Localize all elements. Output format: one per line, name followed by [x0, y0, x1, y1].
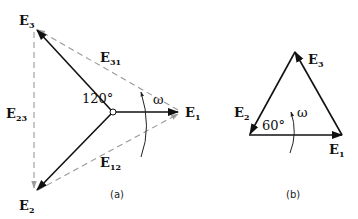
figure-canvas: ω 120° E1 E3 E2 E31 E12 E23 (a) ω 60° E1… — [0, 0, 358, 219]
label-e2-b: E2 — [234, 105, 250, 122]
diagram-b: ω 60° E1 E2 E3 (b) — [234, 52, 345, 200]
angle-label-b: 60° — [262, 118, 285, 133]
rotation-arc-a — [141, 92, 147, 157]
angle-label-a: 120° — [82, 91, 113, 106]
phasor-e2 — [37, 114, 111, 190]
omega-label-a: ω — [153, 92, 164, 107]
label-e3-a: E3 — [19, 13, 35, 30]
label-e2-a: E2 — [19, 198, 35, 215]
label-e12: E12 — [100, 155, 121, 172]
label-e1-b: E1 — [329, 142, 345, 159]
label-e23: E23 — [6, 106, 27, 123]
caption-b: (b) — [286, 189, 300, 200]
label-e3-b: E3 — [308, 52, 324, 69]
label-e1-a: E1 — [185, 105, 201, 122]
omega-label-b: ω — [297, 105, 308, 120]
caption-a: (a) — [110, 189, 124, 200]
line-e12 — [38, 114, 178, 190]
phasor-diagram-figure: ω 120° E1 E3 E2 E31 E12 E23 (a) ω 60° E1… — [0, 0, 358, 219]
neutral-point — [110, 109, 116, 115]
diagram-a: ω 120° E1 E3 E2 E31 E12 E23 (a) — [6, 13, 201, 215]
label-e31: E31 — [100, 50, 121, 67]
rotation-arc-b — [290, 112, 294, 153]
